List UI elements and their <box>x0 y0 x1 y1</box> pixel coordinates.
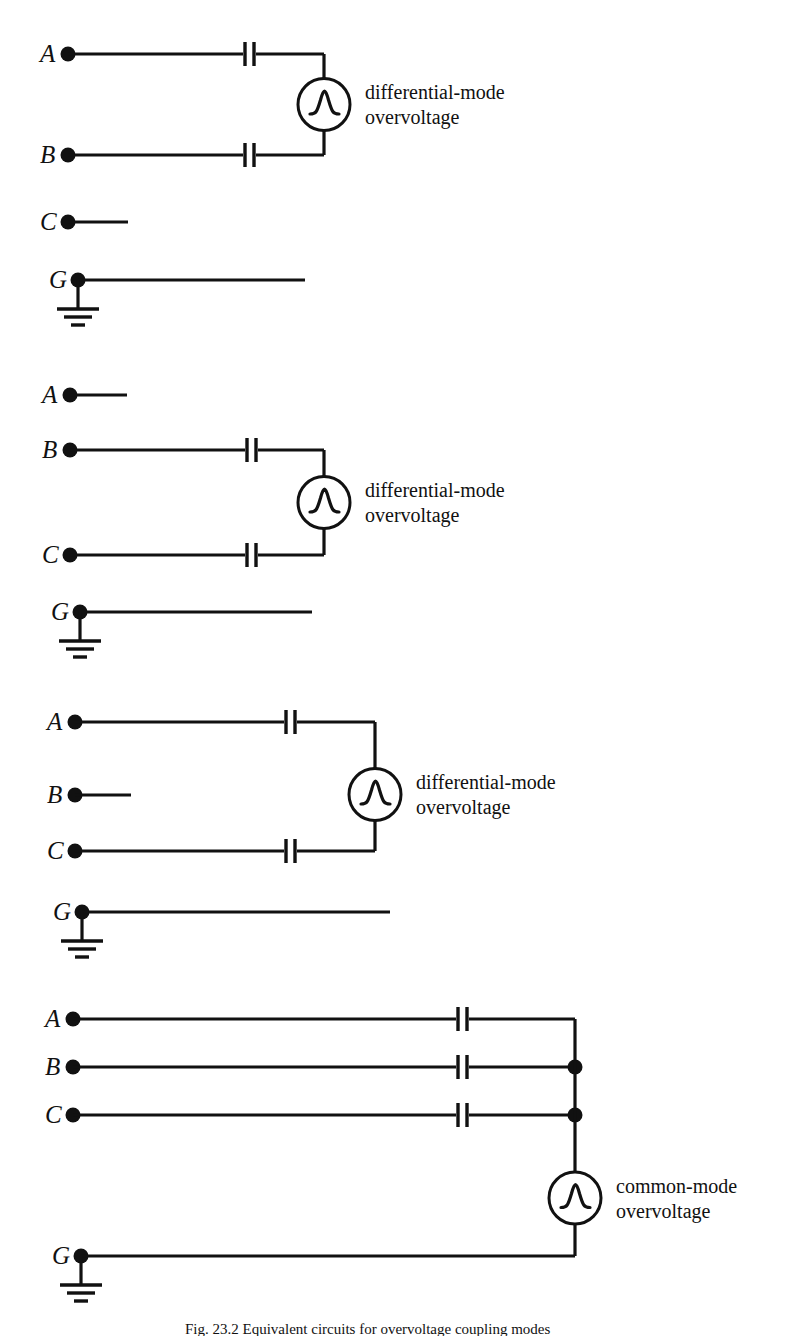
capacitor-symbol <box>458 1007 467 1031</box>
source-label-line2: overvoltage <box>616 1200 711 1223</box>
block-4-circuit: A B C G common-mode overvoltage <box>43 1005 737 1301</box>
terminal-label-g: G <box>51 598 69 625</box>
block-2-row-a <box>63 388 128 403</box>
block-3-row-b <box>68 788 132 803</box>
capacitor-symbol <box>458 1055 467 1079</box>
terminal-label-c: C <box>40 208 57 235</box>
block-3-row-c <box>68 839 376 863</box>
terminal-label-b: B <box>42 436 57 463</box>
terminal-label-c: C <box>42 541 59 568</box>
block-3-row-a <box>68 710 376 734</box>
block-2-circuit: A B C G differential-mode overvoltage <box>40 381 505 657</box>
impulse-source-symbol <box>298 79 350 131</box>
impulse-source-symbol <box>298 477 350 529</box>
block-3-circuit: A B C G differential-mode overvoltage <box>45 708 556 957</box>
source-label-line1: common-mode <box>616 1175 737 1197</box>
figure-caption: Fig. 23.2 Equivalent circuits for overvo… <box>185 1321 551 1336</box>
figure-root: A B C G differential-mode overvoltage <box>0 0 796 1336</box>
capacitor-symbol <box>247 543 256 567</box>
terminal-label-a: A <box>45 708 63 735</box>
terminal-label-c: C <box>45 1101 62 1128</box>
terminal-label-a: A <box>43 1005 61 1032</box>
terminal-label-a: A <box>40 381 58 408</box>
terminal-label-b: B <box>47 781 62 808</box>
impulse-source-symbol <box>349 769 401 821</box>
block-4-row-b <box>66 1055 583 1079</box>
block-2-row-g <box>59 605 312 658</box>
block-1-row-g <box>57 273 305 326</box>
source-label-line1: differential-mode <box>365 81 505 103</box>
block-3-row-g <box>61 905 390 958</box>
block-1-circuit: A B C G differential-mode overvoltage <box>38 40 505 325</box>
terminal-label-c: C <box>47 837 64 864</box>
capacitor-symbol <box>247 438 256 462</box>
terminal-label-g: G <box>52 1242 70 1269</box>
block-1-row-a <box>61 42 325 66</box>
terminal-label-g: G <box>49 266 67 293</box>
circuit-diagram-canvas: A B C G differential-mode overvoltage <box>0 0 796 1336</box>
terminal-label-a: A <box>38 40 56 67</box>
terminal-label-b: B <box>40 141 55 168</box>
source-label-line1: differential-mode <box>365 479 505 501</box>
source-label-line2: overvoltage <box>365 106 460 129</box>
block-2-row-b <box>63 438 325 462</box>
capacitor-symbol <box>245 42 254 66</box>
source-label-line1: differential-mode <box>416 771 556 793</box>
capacitor-symbol <box>286 710 295 734</box>
block-2-row-c <box>63 543 325 567</box>
impulse-source-symbol <box>549 1172 601 1224</box>
terminal-label-b: B <box>45 1053 60 1080</box>
terminal-label-g: G <box>53 898 71 925</box>
block-1-row-c <box>61 215 129 230</box>
capacitor-symbol <box>245 143 254 167</box>
block-4-row-a <box>66 1007 576 1031</box>
capacitor-symbol <box>458 1103 467 1127</box>
capacitor-symbol <box>286 839 295 863</box>
block-4-row-g <box>60 1249 575 1302</box>
block-4-row-c <box>66 1103 583 1127</box>
block-1-row-b <box>61 143 325 167</box>
source-label-line2: overvoltage <box>365 504 460 527</box>
source-label-line2: overvoltage <box>416 796 511 819</box>
